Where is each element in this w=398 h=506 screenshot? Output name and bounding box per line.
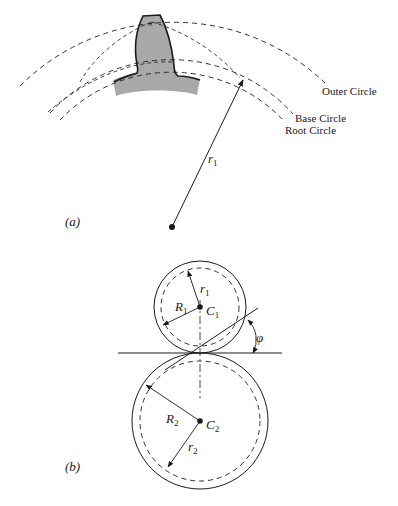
base-circle-label: Base Circle — [295, 112, 346, 124]
gear-center-dot — [169, 224, 175, 230]
label-R1: R1 — [174, 299, 187, 316]
label-C1: C1 — [206, 303, 219, 320]
outer-circle-label: Outer Circle — [322, 85, 377, 97]
label-r2: r2 — [188, 439, 198, 456]
label-R2: R2 — [165, 411, 178, 428]
figure-a-caption: (a) — [65, 214, 80, 229]
tooth-cross-mark: × — [148, 19, 153, 29]
radius-arrow-r2 — [168, 421, 200, 467]
gear-diagram: × r1 Outer Circle Base Circle Root Circl… — [0, 0, 398, 506]
figure-a: × r1 Outer Circle Base Circle Root Circl… — [20, 15, 377, 230]
root-circle-label: Root Circle — [285, 124, 336, 136]
gear-tooth — [113, 15, 200, 96]
radius-arrow-r1-small — [188, 271, 200, 307]
label-phi: φ — [256, 330, 263, 345]
figure-b-caption: (b) — [65, 459, 80, 474]
radius-label-r1: r1 — [208, 151, 218, 168]
label-r1: r1 — [200, 281, 210, 298]
figure-b: r1 R1 C1 φ R2 C2 r2 (b) — [65, 261, 282, 489]
label-C2: C2 — [206, 417, 219, 434]
